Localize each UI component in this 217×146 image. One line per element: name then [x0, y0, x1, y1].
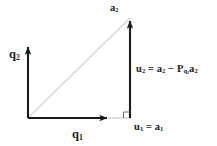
label-a1-sub: 1 — [160, 125, 163, 132]
label-q2-sub: 2 — [16, 53, 20, 62]
label-q1: q1 — [72, 128, 83, 141]
label-u1-equals-sign: = — [143, 121, 155, 132]
label-q1-base: q — [72, 127, 79, 141]
label-q1-sub: 1 — [79, 133, 83, 142]
eq-equals-sign: = — [145, 63, 157, 74]
label-u2-equation: u2 = a2 − Pq1a2 — [136, 64, 198, 75]
label-a2-sub: 2 — [115, 6, 118, 13]
figure-canvas: q2 q1 a2 u1 = a1 u2 = a2 − Pq1a2 — [0, 0, 217, 146]
diagonal-a2-line — [28, 18, 130, 118]
label-q2-base: q — [9, 47, 16, 61]
label-q2: q2 — [9, 48, 20, 61]
label-u1-equals-a1: u1 = a1 — [134, 122, 163, 133]
eq-a2-last-sub: 2 — [194, 67, 197, 74]
eq-minus-sign: − — [165, 63, 177, 74]
label-a2: a2 — [110, 3, 119, 14]
